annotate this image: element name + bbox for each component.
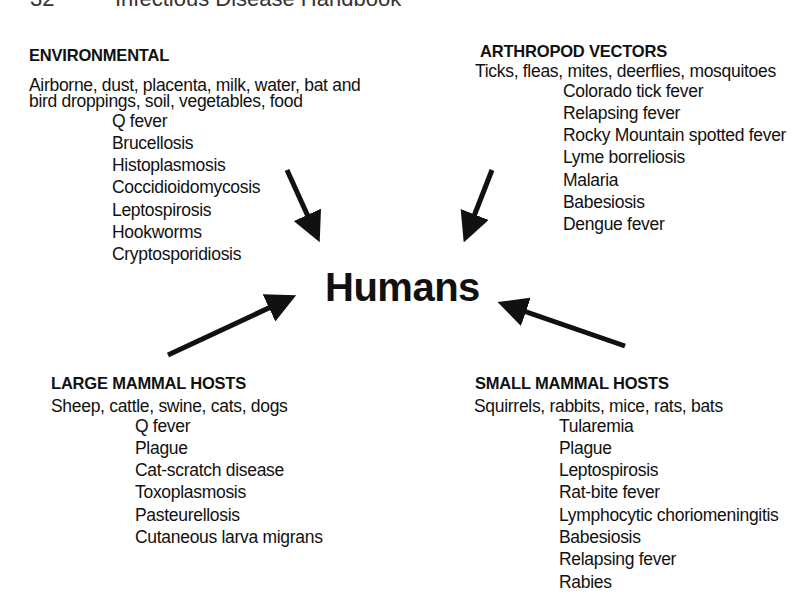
sources-line: bird droppings, soil, vegetables, food [29, 93, 361, 109]
disease-list: Q fever Brucellosis Histoplasmosis Cocci… [112, 110, 361, 266]
list-item: Dengue fever [563, 213, 786, 235]
list-item: Hookworms [112, 221, 361, 243]
list-item: Histoplasmosis [112, 154, 361, 176]
group-sources: Sheep, cattle, swine, cats, dogs [51, 398, 323, 414]
sources-line: Sheep, cattle, swine, cats, dogs [51, 398, 323, 414]
list-item: Lymphocytic choriomeningitis [559, 504, 779, 526]
group-large-mammal-hosts: LARGE MAMMAL HOSTS Sheep, cattle, swine,… [51, 372, 323, 548]
list-item: Plague [559, 437, 779, 459]
list-item: Plague [135, 437, 323, 459]
list-item: Leptospirosis [112, 199, 361, 221]
group-environmental: ENVIRONMENTAL Airborne, dust, placenta, … [29, 44, 361, 266]
group-small-mammal-hosts: SMALL MAMMAL HOSTS Squirrels, rabbits, m… [474, 372, 779, 593]
group-sources: Squirrels, rabbits, mice, rats, bats [474, 398, 779, 414]
list-item: Cat-scratch disease [135, 459, 323, 481]
group-sources: Ticks, fleas, mites, deerflies, mosquito… [475, 63, 786, 79]
list-item: Babesiosis [563, 191, 786, 213]
list-item: Coccidioidomycosis [112, 176, 361, 198]
disease-list: Tularemia Plague Leptospirosis Rat-bite … [559, 415, 779, 593]
group-heading: SMALL MAMMAL HOSTS [475, 372, 779, 395]
disease-list: Colorado tick fever Relapsing fever Rock… [563, 80, 786, 236]
disease-list: Q fever Plague Cat-scratch disease Toxop… [135, 415, 323, 549]
group-heading: ENVIRONMENTAL [29, 44, 361, 67]
group-sources: Airborne, dust, placenta, milk, water, b… [29, 77, 361, 109]
list-item: Toxoplasmosis [135, 481, 323, 503]
list-item: Rat-bite fever [559, 481, 779, 503]
list-item: Rocky Mountain spotted fever [563, 124, 786, 146]
list-item: Brucellosis [112, 132, 361, 154]
list-item: Babesiosis [559, 526, 779, 548]
list-item: Cutaneous larva migrans [135, 526, 323, 548]
list-item: Colorado tick fever [563, 80, 786, 102]
list-item: Malaria [563, 169, 786, 191]
list-item: Tularemia [559, 415, 779, 437]
list-item: Relapsing fever [559, 548, 779, 570]
list-item: Lyme borreliosis [563, 146, 786, 168]
group-heading: LARGE MAMMAL HOSTS [51, 372, 323, 395]
arrow-large-mammal-to-humans [168, 299, 288, 355]
list-item: Leptospirosis [559, 459, 779, 481]
list-item: Rabies [559, 571, 779, 593]
sources-line: Ticks, fleas, mites, deerflies, mosquito… [475, 63, 786, 79]
list-item: Cryptosporidiosis [112, 243, 361, 265]
list-item: Q fever [112, 110, 361, 132]
list-item: Pasteurellosis [135, 504, 323, 526]
list-item: Q fever [135, 415, 323, 437]
sources-line: Squirrels, rabbits, mice, rats, bats [474, 398, 779, 414]
group-heading: ARTHROPOD VECTORS [480, 40, 786, 63]
list-item: Relapsing fever [563, 102, 786, 124]
group-arthropod-vectors: ARTHROPOD VECTORS Ticks, fleas, mites, d… [475, 40, 786, 236]
arrow-small-mammal-to-humans [506, 305, 625, 346]
humans-node: Humans [325, 262, 480, 312]
